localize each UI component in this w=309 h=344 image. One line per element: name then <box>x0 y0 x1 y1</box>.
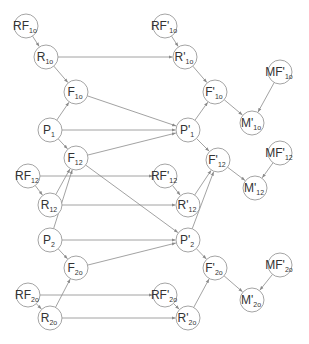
node-RFp2o: RF'2o <box>151 283 177 307</box>
node-Fp1o: F'1o <box>203 80 227 104</box>
node-Mp2o: M'2o <box>240 288 264 312</box>
edge-F1o-to-Pp1 <box>87 96 176 126</box>
node-P2: P2 <box>38 228 62 252</box>
edge-P1-to-F12 <box>58 139 67 149</box>
node-MFp2o: MF'2o <box>265 253 293 277</box>
edge-Rp2o-to-Fp2o <box>194 279 209 307</box>
node-R12: R12 <box>38 193 62 217</box>
node-F12: F12 <box>64 146 88 170</box>
edge-Fp2o-to-Mp2o <box>224 276 242 292</box>
node-RFp1o: RF'1o <box>151 14 177 38</box>
edge-Pp1-to-Fp1o <box>195 102 208 120</box>
node-MFp12: MF'12 <box>265 141 293 165</box>
edge-F12-to-Pp1 <box>88 133 176 155</box>
edge-RFp1o-to-Rp1o <box>172 36 179 46</box>
node-layer: RF1oR1oF1oP1F12RF12R12P2F2oRF2oR2oRF'1oR… <box>13 14 293 330</box>
edge-P2-to-F2o <box>58 249 67 259</box>
node-Mp12: M'12 <box>243 176 267 200</box>
edge-RF2o-to-R2o <box>36 304 41 309</box>
edge-RF12-to-R12 <box>35 186 42 195</box>
node-Rp12: R'12 <box>176 193 200 217</box>
diagram-canvas: RF1oR1oF1oP1F12RF12R12P2F2oRF2oR2oRF'1oR… <box>0 0 309 344</box>
node-Pp1: P'1 <box>176 118 200 142</box>
node-RFp12: RF'12 <box>151 164 177 188</box>
node-Pp2: P'2 <box>176 228 200 252</box>
edge-Fp1o-to-Mp1o <box>224 100 242 115</box>
edge-R12-to-F12 <box>56 169 70 195</box>
edge-P1-to-F1o <box>57 102 69 120</box>
node-F2o: F2o <box>64 256 88 280</box>
node-MFp1o: MF'1o <box>265 60 293 84</box>
edge-R2o-to-F2o <box>56 279 71 307</box>
edge-MFp1o-to-Mp1o <box>258 83 274 113</box>
node-RF12: RF12 <box>15 164 40 188</box>
edge-RF1o-to-R1o <box>33 36 40 46</box>
edge-RFp2o-to-Rp2o <box>173 303 179 309</box>
edge-R1o-to-F1o <box>54 66 68 82</box>
edge-MFp12-to-Mp12 <box>262 163 273 178</box>
node-Rp1o: R'1o <box>173 45 197 69</box>
edge-Rp12-to-Fp12 <box>195 170 211 195</box>
edge-Pp2-to-Fp2o <box>196 249 206 259</box>
edge-RFp12-to-Rp12 <box>172 185 180 195</box>
edge-Rp1o-to-Fp1o <box>193 66 207 82</box>
node-R2o: R2o <box>38 306 62 330</box>
edge-Pp1-to-Fp12 <box>196 138 209 151</box>
node-Fp2o: F'2o <box>203 256 227 280</box>
node-RF1o: RF1o <box>13 14 38 38</box>
node-Mp1o: M'1o <box>240 111 264 135</box>
node-Rp2o: R'2o <box>176 306 200 330</box>
edge-MFp2o-to-Mp2o <box>260 274 273 290</box>
edge-Fp12-to-Mp12 <box>228 167 245 180</box>
node-P1: P1 <box>38 118 62 142</box>
edge-F2o-to-Pp2 <box>88 243 176 265</box>
causal-graph: RF1oR1oF1oP1F12RF12R12P2F2oRF2oR2oRF'1oR… <box>0 0 309 344</box>
node-RF2o: RF2o <box>15 283 40 307</box>
node-Fp12: F'12 <box>206 148 230 172</box>
node-R1o: R1o <box>34 45 58 69</box>
node-F1o: F1o <box>64 80 88 104</box>
